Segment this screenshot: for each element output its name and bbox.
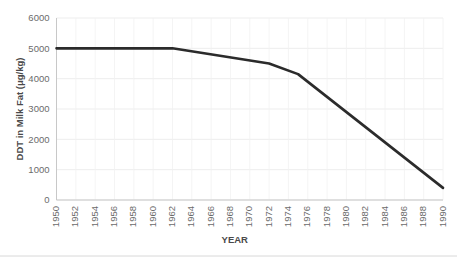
x-axis-tick-label: 1978 (321, 206, 332, 227)
x-axis-tick-labels: 1950195219541956195819601962196419661968… (50, 206, 448, 227)
y-axis-tick-label: 2000 (28, 134, 49, 145)
x-axis-tick-label: 1976 (301, 206, 312, 227)
vertical-gridlines (57, 18, 444, 200)
x-axis-title: YEAR (222, 234, 249, 245)
x-axis-tick-label: 1956 (108, 206, 119, 227)
x-axis-tick-label: 1962 (166, 206, 177, 227)
x-axis-tick-label: 1966 (205, 206, 216, 227)
y-axis-tick-label: 1000 (28, 164, 49, 175)
x-axis-tick-label: 1964 (185, 206, 196, 227)
x-axis-tick-label: 1988 (417, 206, 428, 227)
y-axis-tick-label: 3000 (28, 103, 49, 114)
x-axis-tick-label: 1974 (282, 206, 293, 227)
x-axis-tick-label: 1968 (224, 206, 235, 227)
x-axis-tick-label: 1954 (89, 206, 100, 227)
y-axis-tick-labels: 0100020003000400050006000 (28, 12, 49, 205)
y-axis-tick-label: 0 (44, 194, 49, 205)
x-axis-tick-label: 1958 (127, 206, 138, 227)
x-axis-tick-label: 1952 (69, 206, 80, 227)
y-axis-title: DDT in Milk Fat (μg/kg) (14, 58, 25, 161)
x-axis-tick-label: 1984 (379, 206, 390, 227)
x-axis-tick-label: 1950 (50, 206, 61, 227)
x-axis-tick-label: 1980 (340, 206, 351, 227)
y-axis-tick-label: 5000 (28, 43, 49, 54)
x-axis-tick-label: 1970 (243, 206, 254, 227)
x-axis-tick-label: 1982 (359, 206, 370, 227)
x-axis-tick-label: 1972 (263, 206, 274, 227)
x-axis-tick-label: 1960 (147, 206, 158, 227)
ddt-milk-fat-line-chart: 0100020003000400050006000 19501952195419… (0, 0, 457, 260)
y-axis-tick-label: 6000 (28, 12, 49, 23)
chart-canvas: 0100020003000400050006000 19501952195419… (0, 0, 457, 260)
y-axis-tick-label: 4000 (28, 73, 49, 84)
x-axis-tick-label: 1986 (398, 206, 409, 227)
x-axis-tick-label: 1990 (437, 206, 448, 227)
